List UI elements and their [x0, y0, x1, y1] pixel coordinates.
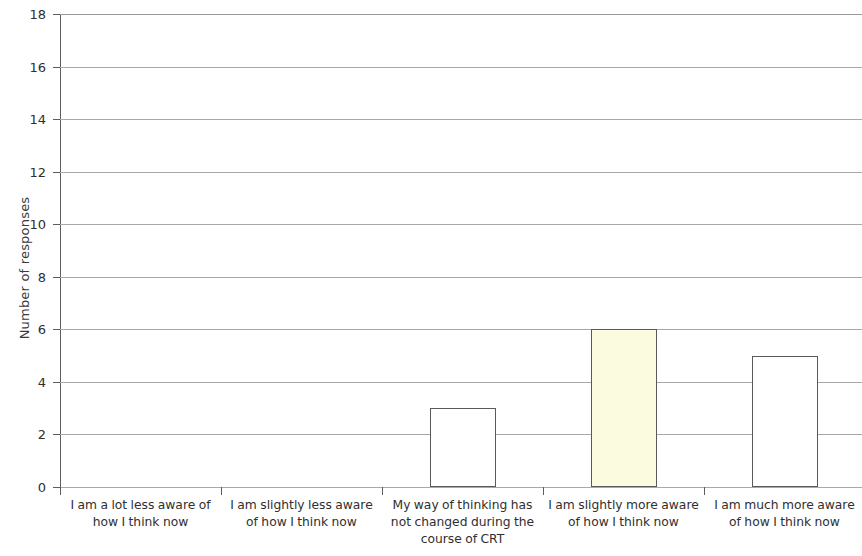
x-tick-mark-4: [704, 487, 705, 495]
y-tick-label-16: 16: [0, 59, 46, 74]
y-tick-label-6: 6: [0, 322, 46, 337]
x-axis-label-0: I am a lot less aware ofhow I think now: [60, 497, 221, 531]
y-tick-label-10: 10: [0, 217, 46, 232]
x-tick-mark-2: [382, 487, 383, 495]
y-tick-label-12: 12: [0, 164, 46, 179]
x-axis-label-4-line-2: of how I think now: [704, 514, 862, 531]
x-axis-label-2: My way of thinking hasnot changed during…: [382, 497, 543, 548]
x-axis-label-4: I am much more awareof how I think now: [704, 497, 862, 531]
bar-4: [752, 356, 818, 487]
x-axis-label-1-line-2: of how I think now: [221, 514, 382, 531]
y-tick-label-4: 4: [0, 374, 46, 389]
x-axis-label-2-line-2: not changed during the: [382, 514, 543, 531]
bar-chart: Number of responses 024681012141618 I am…: [0, 0, 862, 556]
x-axis-label-3-line-2: of how I think now: [543, 514, 704, 531]
x-axis-label-3: I am slightly more awareof how I think n…: [543, 497, 704, 531]
x-axis-label-0-line-1: I am a lot less aware of: [60, 497, 221, 514]
y-tick-label-8: 8: [0, 269, 46, 284]
y-tick-label-2: 2: [0, 427, 46, 442]
x-axis-label-1-line-1: I am slightly less aware: [221, 497, 382, 514]
x-axis-label-1: I am slightly less awareof how I think n…: [221, 497, 382, 531]
x-axis-label-2-line-1: My way of thinking has: [382, 497, 543, 514]
y-tick-label-14: 14: [0, 112, 46, 127]
x-axis-label-0-line-2: how I think now: [60, 514, 221, 531]
bar-3: [591, 329, 657, 487]
x-axis-label-4-line-1: I am much more aware: [704, 497, 862, 514]
x-axis-label-2-line-3: course of CRT: [382, 531, 543, 548]
x-tick-mark-1: [221, 487, 222, 495]
y-axis-title: Number of responses: [17, 168, 37, 368]
x-axis-label-3-line-1: I am slightly more aware: [543, 497, 704, 514]
y-tick-label-18: 18: [0, 7, 46, 22]
y-tick-label-0: 0: [0, 480, 46, 495]
gridline-0: [60, 487, 862, 488]
x-tick-mark-3: [543, 487, 544, 495]
x-tick-mark-0: [60, 487, 61, 495]
bars-group: [60, 14, 862, 487]
bar-2: [430, 408, 496, 487]
